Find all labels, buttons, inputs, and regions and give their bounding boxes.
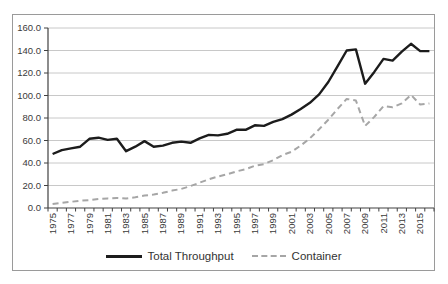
dashed-line-sample-icon — [252, 255, 286, 257]
svg-text:2007: 2007 — [341, 213, 352, 234]
svg-text:2015: 2015 — [414, 213, 425, 234]
svg-text:20.0: 20.0 — [23, 180, 42, 191]
solid-line-sample-icon — [106, 255, 142, 258]
chart-legend: Total Throughput Container — [13, 247, 434, 265]
svg-text:1975: 1975 — [47, 213, 58, 234]
x-axis-labels: 1975197719791981198319851987198919911993… — [47, 213, 426, 234]
chart-figure: 0.020.040.060.080.0100.0120.0140.0160.01… — [0, 0, 448, 284]
svg-text:40.0: 40.0 — [23, 157, 42, 168]
svg-text:1985: 1985 — [139, 213, 150, 234]
series-lines — [53, 44, 430, 204]
svg-text:100.0: 100.0 — [17, 90, 41, 101]
y-axis-labels: 0.020.040.060.080.0100.0120.0140.0160.0 — [17, 22, 48, 213]
legend-item-total-throughput: Total Throughput — [106, 250, 234, 262]
svg-text:1995: 1995 — [231, 213, 242, 234]
legend-item-container: Container — [252, 250, 342, 262]
svg-text:2011: 2011 — [378, 213, 389, 233]
svg-text:160.0: 160.0 — [17, 22, 41, 33]
svg-text:0.0: 0.0 — [28, 202, 41, 213]
svg-text:1987: 1987 — [157, 213, 168, 234]
svg-text:1991: 1991 — [194, 213, 205, 234]
line-chart-canvas: 0.020.040.060.080.0100.0120.0140.0160.01… — [0, 0, 448, 284]
svg-text:1999: 1999 — [267, 213, 278, 234]
svg-text:1979: 1979 — [84, 213, 95, 234]
gridlines — [48, 28, 434, 186]
series-line-total-throughput — [53, 44, 430, 154]
svg-text:1993: 1993 — [212, 213, 223, 234]
svg-text:1997: 1997 — [249, 213, 260, 234]
svg-text:1983: 1983 — [120, 213, 131, 234]
svg-text:1989: 1989 — [175, 213, 186, 234]
legend-label-container: Container — [292, 250, 342, 262]
svg-text:140.0: 140.0 — [17, 45, 41, 56]
svg-text:120.0: 120.0 — [17, 67, 41, 78]
svg-text:2003: 2003 — [304, 213, 315, 234]
svg-text:2009: 2009 — [359, 213, 370, 234]
svg-text:80.0: 80.0 — [23, 112, 42, 123]
svg-text:2013: 2013 — [396, 213, 407, 234]
svg-text:2005: 2005 — [323, 213, 334, 234]
svg-text:1977: 1977 — [65, 213, 76, 234]
svg-text:1981: 1981 — [102, 213, 113, 234]
svg-text:2001: 2001 — [286, 213, 297, 234]
svg-text:60.0: 60.0 — [23, 135, 42, 146]
series-line-container — [53, 95, 430, 204]
legend-label-total-throughput: Total Throughput — [148, 250, 234, 262]
